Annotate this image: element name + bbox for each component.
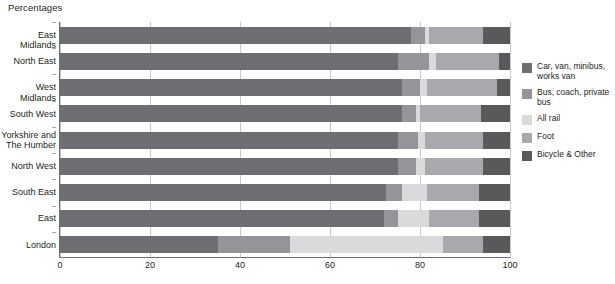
bar-row [60, 210, 510, 227]
bar-segment [416, 158, 425, 175]
legend-label: Bus, coach, private bus [537, 88, 609, 107]
y-tick-mark [52, 48, 56, 49]
bar-segment [427, 184, 479, 201]
bar-segment [425, 158, 484, 175]
gridline [510, 22, 511, 258]
bar-row [60, 158, 510, 175]
y-tick-label: East [0, 213, 56, 224]
page-title: Percentages [8, 2, 62, 13]
bar-segment [420, 79, 427, 96]
bar-segment [398, 210, 430, 227]
y-tick-label: South East [0, 187, 56, 198]
plot-area [60, 22, 510, 258]
bar-segment [60, 27, 411, 44]
y-tick-mark [52, 127, 56, 128]
bar-segment [411, 27, 425, 44]
x-tick-label: 40 [235, 260, 245, 270]
bar-row [60, 105, 510, 122]
y-tick-label: London [0, 240, 56, 251]
legend-swatch-icon [522, 63, 532, 73]
bar-row [60, 184, 510, 201]
y-tick-label: West Midlands [0, 82, 56, 103]
legend-label: Bicycle & Other [537, 150, 596, 160]
legend-item[interactable]: Car, van, minibus, works van [522, 62, 615, 81]
bar-row [60, 79, 510, 96]
bar-segment [402, 184, 427, 201]
x-axis-labels: 020406080100 [60, 260, 510, 276]
y-tick-mark [52, 206, 56, 207]
legend-label: All rail [537, 114, 560, 124]
bar-segment [398, 132, 418, 149]
y-tick-mark [52, 74, 56, 75]
bar-row [60, 53, 510, 70]
bar-row [60, 132, 510, 149]
bar-segment [481, 105, 510, 122]
legend-item[interactable]: Bicycle & Other [522, 150, 615, 161]
x-tick-label: 60 [325, 260, 335, 270]
bar-segment [483, 132, 510, 149]
bar-segment [483, 158, 510, 175]
bar-segment [398, 53, 430, 70]
y-tick-label: East Midlands [0, 30, 56, 51]
x-tick-label: 20 [145, 260, 155, 270]
y-tick-mark [52, 101, 56, 102]
bar-segment [60, 158, 398, 175]
y-tick-label: North East [0, 56, 56, 67]
bar-segment [479, 210, 511, 227]
legend-swatch-icon [522, 115, 532, 125]
x-tick-label: 80 [415, 260, 425, 270]
bar-segment [429, 210, 479, 227]
bar-segment [60, 236, 218, 253]
bar-segment [60, 105, 402, 122]
bar-segment [402, 105, 416, 122]
bar-segment [425, 132, 484, 149]
legend-item[interactable]: All rail [522, 114, 615, 125]
y-tick-label: South West [0, 109, 56, 120]
y-tick-label: Yorkshire and The Humber [0, 130, 56, 151]
y-tick-mark [52, 179, 56, 180]
y-tick-mark [52, 22, 56, 23]
bar-segment [483, 236, 510, 253]
bar-row [60, 27, 510, 44]
y-tick-mark [52, 232, 56, 233]
legend-swatch-icon [522, 89, 532, 99]
bar-segment [436, 53, 499, 70]
legend-item[interactable]: Bus, coach, private bus [522, 88, 615, 107]
bar-segment [499, 53, 510, 70]
bar-segment [497, 79, 511, 96]
bar-segment [290, 236, 443, 253]
bar-segment [402, 79, 420, 96]
bar-segment [218, 236, 290, 253]
bar-segment [429, 27, 483, 44]
bar-segment [420, 105, 481, 122]
bar-segment [398, 158, 416, 175]
bar-segment [60, 132, 398, 149]
legend-label: Foot [537, 132, 554, 142]
y-tick-mark [52, 153, 56, 154]
bar-segment [443, 236, 484, 253]
bar-segment [384, 210, 398, 227]
legend-swatch-icon [522, 151, 532, 161]
bar-segment [483, 27, 510, 44]
chart-legend: Car, van, minibus, works vanBus, coach, … [522, 62, 615, 168]
y-tick-label: North West [0, 161, 56, 172]
bar-row [60, 236, 510, 253]
y-axis-labels: East MidlandsNorth EastWest MidlandsSout… [0, 22, 56, 258]
legend-item[interactable]: Foot [522, 132, 615, 143]
bar-segment [429, 53, 436, 70]
bar-segment [386, 184, 402, 201]
bar-segment [479, 184, 511, 201]
x-axis-line [60, 257, 510, 258]
bar-segment [60, 184, 386, 201]
bar-segment [60, 210, 384, 227]
x-tick-label: 100 [502, 260, 517, 270]
bar-segment [418, 132, 425, 149]
bar-segment [60, 53, 398, 70]
bar-segment [427, 79, 497, 96]
legend-swatch-icon [522, 133, 532, 143]
bar-segment [60, 79, 402, 96]
legend-label: Car, van, minibus, works van [537, 62, 605, 81]
x-tick-label: 0 [57, 260, 62, 270]
